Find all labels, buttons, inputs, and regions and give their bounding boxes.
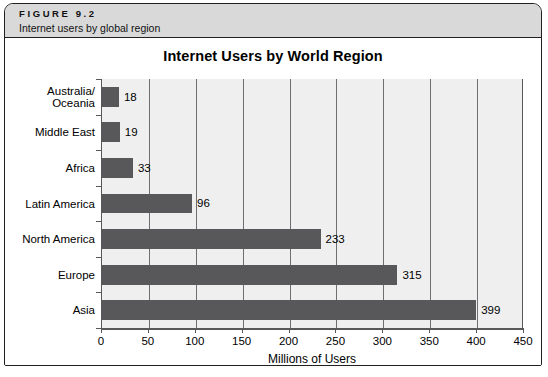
bar-value-label: 399 — [476, 304, 500, 316]
x-axis-tick — [289, 328, 290, 333]
bar-value-label: 18 — [119, 91, 137, 103]
x-axis-line — [101, 328, 524, 330]
x-axis-tick-label: 100 — [185, 335, 204, 347]
bar-row: 18 — [102, 87, 522, 107]
bar-value-label: 19 — [120, 126, 138, 138]
y-axis-category-label: Europe — [9, 268, 101, 281]
bar-value-label: 96 — [192, 197, 210, 209]
x-axis-tick — [242, 328, 243, 333]
x-axis-tick-label: 0 — [98, 335, 104, 347]
figure-number: FIGURE 9.2 — [19, 8, 541, 20]
x-axis-tick — [476, 328, 477, 333]
x-axis-tick — [101, 328, 102, 333]
x-axis-tick-label: 250 — [326, 335, 345, 347]
x-axis-tick — [382, 328, 383, 333]
x-axis-tick-label: 50 — [141, 335, 154, 347]
x-axis-tick — [523, 328, 524, 333]
bar[interactable] — [102, 122, 120, 142]
x-axis-tick — [335, 328, 336, 333]
x-axis-tick-label: 350 — [420, 335, 439, 347]
y-axis-labels: Australia/OceaniaMiddle EastAfricaLatin … — [5, 79, 101, 328]
source-note — [330, 368, 544, 375]
bar[interactable] — [102, 158, 133, 178]
bar-row: 399 — [102, 300, 522, 320]
bar[interactable] — [102, 194, 192, 214]
bar-value-label: 315 — [397, 269, 421, 281]
bar[interactable] — [102, 87, 119, 107]
chart-title: Internet Users by World Region — [5, 48, 541, 64]
y-axis-category-label: North America — [9, 233, 101, 246]
y-axis-category-label: Latin America — [9, 197, 101, 210]
bar-row: 315 — [102, 265, 522, 285]
bar[interactable] — [102, 229, 321, 249]
bar[interactable] — [102, 265, 397, 285]
bar[interactable] — [102, 300, 476, 320]
plot-area: 18193396233315399 — [101, 79, 523, 328]
figure-caption: Internet users by global region — [19, 21, 541, 35]
y-axis-category-label: Asia — [9, 304, 101, 317]
bar-row: 96 — [102, 194, 522, 214]
x-axis-title: Millions of Users — [101, 352, 523, 366]
x-axis-tick-label: 450 — [513, 335, 532, 347]
y-axis-category-label: Australia/Oceania — [9, 84, 101, 109]
x-axis-tick-label: 200 — [279, 335, 298, 347]
chart-body: Internet Users by World Region Australia… — [5, 38, 541, 365]
x-axis-tick — [429, 328, 430, 333]
figure-frame: FIGURE 9.2 Internet users by global regi… — [4, 3, 542, 366]
bar-row: 19 — [102, 122, 522, 142]
bar-value-label: 33 — [133, 162, 151, 174]
x-axis-tick — [148, 328, 149, 333]
x-axis-tick-label: 150 — [232, 335, 251, 347]
x-axis-tick-label: 400 — [467, 335, 486, 347]
bar-row: 33 — [102, 158, 522, 178]
figure-header: FIGURE 9.2 Internet users by global regi… — [5, 4, 541, 38]
bar-row: 233 — [102, 229, 522, 249]
bar-value-label: 233 — [321, 233, 345, 245]
y-axis-category-label: Africa — [9, 162, 101, 175]
y-axis-category-label: Middle East — [9, 126, 101, 139]
x-axis-tick — [195, 328, 196, 333]
x-axis-tick-label: 300 — [373, 335, 392, 347]
